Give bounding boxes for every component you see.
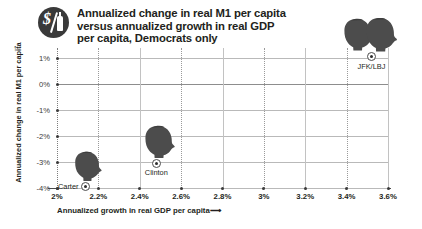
gridline-vertical bbox=[223, 48, 224, 188]
x-tick-dot bbox=[304, 187, 307, 190]
x-tick-dot bbox=[97, 187, 100, 190]
gridline-vertical bbox=[140, 48, 141, 188]
y-tick-label: 0% bbox=[26, 80, 50, 89]
y-tick-dot bbox=[56, 57, 59, 60]
data-point-marker[interactable] bbox=[81, 182, 90, 191]
money-badge-icon: $ bbox=[38, 7, 69, 38]
gridline-vertical bbox=[388, 48, 389, 188]
gridline-vertical bbox=[347, 48, 348, 188]
dollar-sign-glyph: $ bbox=[43, 11, 51, 27]
y-tick-dot bbox=[56, 109, 59, 112]
y-tick-label: -2% bbox=[26, 132, 50, 141]
data-point-marker[interactable] bbox=[152, 159, 161, 168]
x-tick-dot bbox=[180, 187, 183, 190]
y-axis-title: Annualized change in real M1 per capita bbox=[14, 39, 23, 187]
x-tick-dot bbox=[387, 187, 390, 190]
x-axis-arrow-icon: ⟶ bbox=[210, 206, 221, 215]
y-tick-dot bbox=[56, 83, 59, 86]
x-tick-label: 2.4% bbox=[120, 192, 160, 201]
x-tick-label: 3% bbox=[244, 192, 284, 201]
x-tick-label: 3.2% bbox=[285, 192, 325, 201]
x-axis-title: Annualized growth in real GDP per capita… bbox=[57, 206, 221, 215]
x-tick-dot bbox=[138, 187, 141, 190]
plot-area bbox=[57, 58, 388, 188]
x-tick-label: 3.6% bbox=[368, 192, 408, 201]
data-point-label: JFK/LBJ bbox=[357, 62, 385, 71]
x-tick-label: 2.2% bbox=[78, 192, 118, 201]
y-tick-label: 1% bbox=[26, 54, 50, 63]
x-tick-label: 3.4% bbox=[327, 192, 367, 201]
chart-title: Annualized change in real M1 per capita … bbox=[77, 6, 286, 45]
y-tick-label: -3% bbox=[26, 158, 50, 167]
bottle-glyph bbox=[57, 16, 63, 31]
gridline-vertical bbox=[264, 48, 265, 188]
x-tick-dot bbox=[221, 187, 224, 190]
chart-figure: $ Annualized change in real M1 per capit… bbox=[0, 0, 422, 229]
x-tick-label: 2.8% bbox=[203, 192, 243, 201]
x-tick-dot bbox=[345, 187, 348, 190]
y-tick-dot bbox=[56, 161, 59, 164]
data-point-label: Carter bbox=[58, 182, 79, 191]
x-tick-label: 2% bbox=[37, 192, 77, 201]
y-tick-dot bbox=[56, 135, 59, 138]
y-tick-label: -1% bbox=[26, 106, 50, 115]
data-point-label: Clinton bbox=[145, 168, 168, 177]
x-axis-title-text: Annualized growth in real GDP per capita bbox=[57, 206, 210, 215]
gridline-vertical bbox=[305, 48, 306, 188]
gridline-vertical bbox=[181, 48, 182, 188]
x-tick-label: 2.6% bbox=[161, 192, 201, 201]
